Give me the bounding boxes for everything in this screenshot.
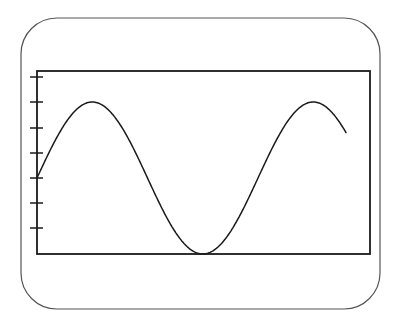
sine-wave-figure	[0, 0, 396, 328]
axes-box	[37, 71, 370, 254]
outer-rounded-frame	[21, 18, 380, 309]
sine-curve	[37, 102, 346, 254]
